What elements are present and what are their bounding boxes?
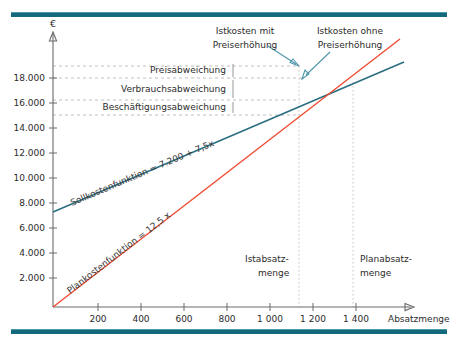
band-label-preisabweichung: Preisabweichung [150, 65, 226, 75]
y-tick-label-2000: 2.000 [19, 273, 45, 283]
x-tick-label-600: 600 [175, 314, 192, 324]
callout-istkosten-mit-line2: Preiserhöhung [213, 40, 278, 50]
callout-istkosten-ohne-line1: Istkosten ohne [317, 26, 384, 36]
x-tick-label-1000: 1 000 [257, 314, 283, 324]
y-tick-label-16000: 16.000 [14, 98, 46, 108]
vertical-label-planabsatzmenge-line1: Planabsatz- [360, 254, 412, 264]
y-tick-label-18000: 18.000 [14, 73, 46, 83]
chart-canvas: € 18.000 16.000 14.000 12.000 10.000 8.0… [0, 0, 456, 346]
y-tick-label-6000: 6.000 [19, 223, 45, 233]
x-tick-label-1200: 1 200 [300, 314, 326, 324]
vertical-label-planabsatzmenge-line2: menge [360, 268, 392, 278]
x-tick-label-200: 200 [89, 314, 106, 324]
vertical-label-istabsatzmenge-line2: menge [258, 268, 290, 278]
vertical-label-istabsatzmenge-line1: Istabsatz- [245, 254, 289, 264]
x-axis-title: Absatzmenge [388, 314, 450, 324]
band-label-verbrauchsabweichung: Verbrauchsabweichung [121, 84, 226, 94]
band-label-beschaeftigungsabweichung: Beschäftigungsabweichung [102, 102, 226, 112]
y-tick-label-12000: 12.000 [14, 148, 46, 158]
callout-leader-istkosten-ohne [306, 52, 330, 75]
x-tick-label-400: 400 [132, 314, 149, 324]
y-tick-label-14000: 14.000 [14, 123, 46, 133]
y-tick-label-8000: 8.000 [19, 198, 45, 208]
callout-istkosten-ohne-line2: Preiserhöhung [318, 40, 383, 50]
callout-istkosten-mit-line1: Istkosten mit [216, 26, 275, 36]
x-tick-label-1400: 1 400 [343, 314, 369, 324]
chart-figure: € 18.000 16.000 14.000 12.000 10.000 8.0… [0, 0, 456, 346]
y-axis-title: € [50, 18, 56, 29]
y-tick-label-4000: 4.000 [19, 248, 45, 258]
series-label-plankostenfunktion: Plankostenfunktion = 12,5 x [65, 209, 173, 295]
x-tick-label-800: 800 [218, 314, 235, 324]
callout-leader-istkosten-ohne-arrowhead [302, 70, 309, 79]
y-tick-label-10000: 10.000 [14, 173, 46, 183]
